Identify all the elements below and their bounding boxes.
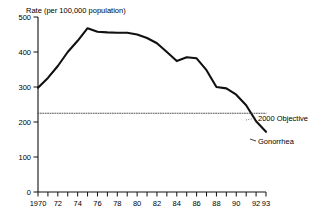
x-tick-label: 72	[54, 199, 62, 208]
y-tick-label: 0	[27, 188, 31, 197]
x-tick-label: 78	[113, 199, 121, 208]
chart-series-group	[38, 28, 266, 132]
annotation-2000-objective: 2000 Objective	[258, 114, 308, 123]
gonorrhea-leader-line	[250, 139, 256, 141]
x-tick-label: 84	[173, 199, 181, 208]
x-tick-label: 92	[252, 199, 260, 208]
x-tick-label: 76	[93, 199, 101, 208]
chart-figure: Rate (per 100,000 population) 0100200300…	[0, 0, 315, 214]
x-tick-label: 88	[212, 199, 220, 208]
x-axis-ticks: 1970727476788082848688909293	[30, 192, 271, 208]
y-tick-label: 200	[18, 118, 31, 127]
y-tick-label: 300	[18, 83, 31, 92]
series-line-gonorrhea	[38, 28, 266, 132]
x-tick-label: 93	[262, 199, 270, 208]
y-axis-title: Rate (per 100,000 population)	[26, 6, 126, 15]
y-tick-label: 400	[18, 48, 31, 57]
x-tick-label: 1970	[30, 199, 47, 208]
chart-axis-title-group: Rate (per 100,000 population)	[26, 6, 126, 15]
y-axis-ticks: 0100200300400500	[18, 13, 38, 197]
x-tick-label: 86	[192, 199, 200, 208]
x-tick-label: 80	[133, 199, 141, 208]
x-tick-label: 90	[232, 199, 240, 208]
x-tick-label: 74	[73, 199, 81, 208]
y-tick-label: 500	[18, 13, 31, 22]
annotation-gonorrhea: Gonorrhea	[258, 137, 295, 146]
x-tick-label: 82	[153, 199, 161, 208]
chart-canvas: Rate (per 100,000 population) 0100200300…	[0, 0, 315, 214]
y-tick-label: 100	[18, 153, 31, 162]
